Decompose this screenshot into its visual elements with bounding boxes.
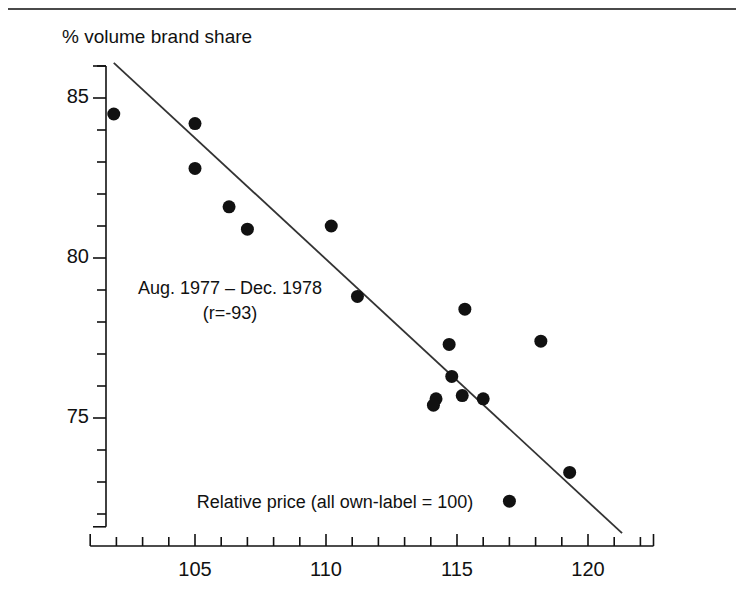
x-axis-tick-label: 115 [427, 558, 487, 581]
data-point [189, 162, 202, 175]
data-point [458, 303, 471, 316]
data-point [563, 466, 576, 479]
data-point [241, 223, 254, 236]
x-axis-title: Relative price (all own-label = 100) [155, 492, 515, 513]
x-axis-tick-label: 105 [165, 558, 225, 581]
y-axis-tick-label: 80 [45, 245, 89, 268]
x-axis-tick-label: 120 [558, 558, 618, 581]
x-axis-tick-label: 110 [296, 558, 356, 581]
data-point [223, 200, 236, 213]
data-point [534, 335, 547, 348]
data-point [477, 392, 490, 405]
y-axis-tick-label: 75 [45, 405, 89, 428]
annotation-correlation: (r=-93) [105, 303, 355, 324]
data-point [107, 108, 120, 121]
figure-page: % volume brand share 858075 105110115120… [0, 0, 741, 614]
data-point [445, 370, 458, 383]
y-axis-tick-label: 85 [45, 85, 89, 108]
annotation-date-range: Aug. 1977 – Dec. 1978 [105, 278, 355, 299]
data-point [443, 338, 456, 351]
data-point [325, 220, 338, 233]
data-point [456, 389, 469, 402]
data-point [189, 117, 202, 130]
data-point [427, 399, 440, 412]
